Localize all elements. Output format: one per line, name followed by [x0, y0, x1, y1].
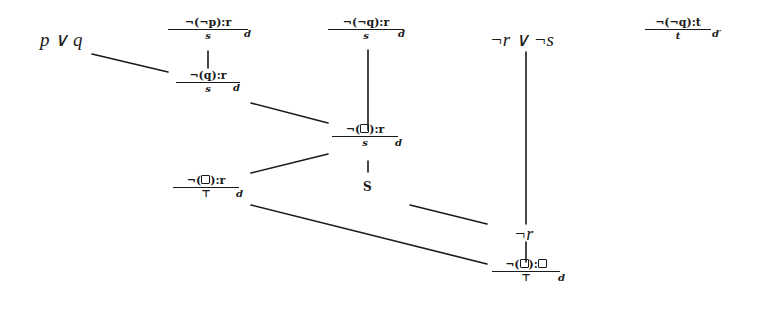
- default-label: d: [233, 82, 240, 93]
- default-not-not-q-t: ¬(¬q):t t: [645, 16, 711, 42]
- node-p-or-q: p ∨ q: [40, 28, 83, 51]
- edge-pq-to-nq: [92, 54, 168, 72]
- default-conclusion: ⊤: [173, 188, 239, 200]
- default-not-q: ¬(q):r s: [176, 69, 240, 95]
- node-not-r-or-not-s: ¬r ∨ ¬s: [490, 28, 554, 51]
- prereq-prefix: ¬(: [505, 258, 519, 271]
- default-conclusion: s: [328, 30, 404, 42]
- edges-layer: [0, 0, 762, 309]
- default-label: d: [558, 272, 565, 283]
- default-conclusion: s: [168, 30, 248, 42]
- prereq-middle: ):: [529, 258, 538, 271]
- default-label: d: [236, 188, 243, 199]
- default-prerequisite: ¬(q):r: [176, 69, 240, 83]
- edge-nbox-top-to-nbox-box: [251, 205, 487, 264]
- default-conclusion: ⊤: [492, 272, 560, 284]
- diagram-canvas: p ∨ q ¬r ∨ ¬s ¬(¬p):r s d ¬(q):r s d ¬(¬…: [0, 0, 762, 309]
- box-icon: [201, 175, 210, 184]
- default-conclusion: s: [176, 83, 240, 95]
- default-label: d: [398, 28, 405, 39]
- default-prerequisite: ¬():: [492, 258, 560, 272]
- edge-nq-to-nbox-s: [251, 103, 328, 123]
- default-not-not-q: ¬(¬q):r s: [328, 16, 404, 42]
- default-not-box-s: ¬():r s: [332, 123, 398, 149]
- box-icon: [520, 259, 529, 268]
- default-conclusion: s: [332, 137, 398, 149]
- default-prerequisite: ¬(¬q):t: [645, 16, 711, 30]
- prereq-suffix: ):r: [369, 123, 384, 136]
- box-icon: [538, 259, 547, 268]
- default-prerequisite: ¬():r: [173, 174, 239, 188]
- box-icon: [360, 124, 369, 133]
- prereq-prefix: ¬(: [187, 174, 201, 187]
- default-conclusion: t: [645, 30, 711, 42]
- prereq-suffix: ):r: [210, 174, 225, 187]
- default-prerequisite: ¬(¬p):r: [168, 16, 248, 30]
- edge-S-to-not-r: [410, 205, 487, 224]
- default-not-box-top: ¬():r ⊤: [173, 174, 239, 200]
- default-not-box-box: ¬(): ⊤: [492, 258, 560, 284]
- default-prerequisite: ¬():r: [332, 123, 398, 137]
- default-label: d: [395, 137, 402, 148]
- default-label: d′: [712, 28, 722, 39]
- node-S: S: [363, 180, 372, 194]
- prereq-prefix: ¬(: [346, 123, 360, 136]
- edge-nbox-top-to-nbox-s: [251, 154, 328, 173]
- default-prerequisite: ¬(¬q):r: [328, 16, 404, 30]
- default-not-not-p: ¬(¬p):r s: [168, 16, 248, 42]
- node-not-r: ¬r: [514, 224, 533, 245]
- default-label: d: [244, 28, 251, 39]
